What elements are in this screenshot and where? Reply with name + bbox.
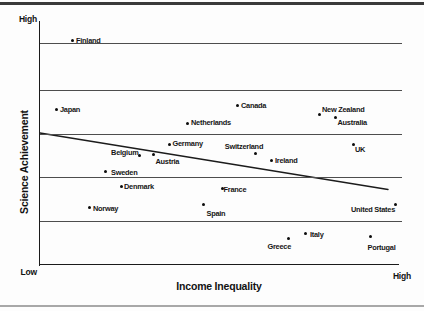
point-label-italy: Italy — [310, 230, 324, 239]
point-label-new-zealand: New Zealand — [322, 105, 364, 114]
point-label-ireland: Ireland — [275, 156, 297, 165]
data-point-portugal — [369, 235, 372, 238]
point-label-austria: Austria — [156, 157, 180, 166]
bottom-rule — [0, 305, 424, 308]
data-point-spain — [202, 203, 205, 206]
data-point-netherlands — [186, 122, 189, 125]
x-axis-line — [39, 264, 399, 266]
y-axis-high-label: High — [10, 14, 37, 24]
data-point-japan — [55, 108, 58, 111]
data-point-germany — [168, 143, 171, 146]
point-label-sweden: Sweden — [111, 168, 137, 177]
data-point-norway — [88, 206, 91, 209]
data-point-greece — [287, 237, 290, 240]
point-label-greece: Greece — [267, 242, 291, 251]
point-label-spain: Spain — [207, 209, 226, 218]
point-label-united-states: United States — [351, 205, 395, 214]
top-rule — [0, 2, 424, 5]
point-label-france: France — [224, 185, 247, 194]
data-point-italy — [304, 232, 307, 235]
point-label-finland: Finland — [76, 36, 101, 45]
data-point-canada — [236, 104, 239, 107]
point-label-netherlands: Netherlands — [191, 118, 231, 127]
y-axis-low-label: Low — [10, 267, 37, 277]
point-label-denmark: Denmark — [124, 182, 154, 191]
data-point-ireland — [270, 159, 273, 162]
point-label-uk: UK — [355, 145, 365, 154]
data-point-denmark — [120, 185, 123, 188]
point-label-australia: Australia — [338, 118, 367, 127]
gridline-3 — [40, 134, 403, 135]
point-label-norway: Norway — [93, 204, 118, 213]
point-label-japan: Japan — [60, 105, 80, 114]
data-point-sweden — [104, 170, 107, 173]
point-label-switzerland: Switzerland — [194, 142, 294, 151]
point-label-belgium: Belgium — [111, 148, 138, 157]
y-axis-title: Science Achievement — [18, 110, 30, 214]
point-label-canada: Canada — [241, 101, 266, 110]
y-axis-line — [39, 21, 41, 266]
gridline-4 — [40, 177, 403, 178]
data-point-new-zealand — [318, 113, 321, 116]
gridline-5 — [40, 221, 403, 222]
x-axis-title: Income Inequality — [40, 280, 398, 292]
gridline-2 — [40, 90, 403, 91]
point-label-portugal: Portugal — [368, 243, 396, 252]
data-point-finland — [71, 39, 74, 42]
scatter-figure: High Low High Science Achievement Income… — [0, 0, 424, 311]
data-point-switzerland — [254, 152, 257, 155]
